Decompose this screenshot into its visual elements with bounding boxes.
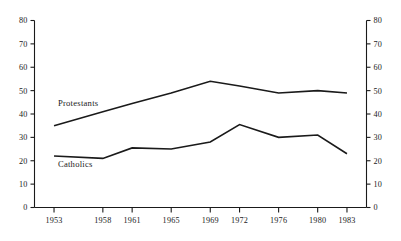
y-tick-label-left: 20 <box>19 157 28 166</box>
series-label-protestants: Protestants <box>58 98 99 108</box>
x-tick-label: 1961 <box>124 216 141 225</box>
y-tick-label-left: 50 <box>19 87 28 96</box>
y-tick-label-right: 20 <box>374 157 383 166</box>
x-tick-label: 1983 <box>338 216 355 225</box>
y-tick-label-right: 70 <box>374 40 383 49</box>
y-tick-label-left: 70 <box>19 40 28 49</box>
y-tick-label-left: 60 <box>19 63 28 72</box>
y-tick-label-right: 40 <box>374 110 383 119</box>
y-tick-label-right: 50 <box>374 87 383 96</box>
series-line-catholics <box>54 125 347 159</box>
series-label-catholics: Catholics <box>58 159 93 169</box>
y-tick-label-left: 0 <box>23 203 27 212</box>
y-tick-label-right: 60 <box>374 63 383 72</box>
y-tick-label-left: 80 <box>19 16 28 25</box>
line-chart-plot: 01020304050607080 01020304050607080 1953… <box>0 0 401 241</box>
x-tick-label: 1980 <box>309 216 326 225</box>
series-lines <box>54 81 347 158</box>
y-tick-label-right: 0 <box>374 203 378 212</box>
x-tick-label: 1972 <box>231 216 248 225</box>
x-tick-label: 1953 <box>45 216 62 225</box>
x-tick-label: 1976 <box>270 216 287 225</box>
x-tick-label: 1958 <box>94 216 111 225</box>
x-axis: 195319581961196519691972197619801983 <box>35 208 367 225</box>
y-tick-label-left: 30 <box>19 133 28 142</box>
y-tick-label-right: 80 <box>374 16 383 25</box>
right-y-axis: 01020304050607080 <box>367 16 383 212</box>
y-tick-label-left: 10 <box>19 180 28 189</box>
x-tick-label: 1969 <box>202 216 219 225</box>
chart-container: 01020304050607080 01020304050607080 1953… <box>0 0 401 241</box>
y-tick-label-right: 30 <box>374 133 383 142</box>
y-tick-label-left: 40 <box>19 110 28 119</box>
left-y-axis: 01020304050607080 <box>19 16 35 212</box>
x-tick-label: 1965 <box>163 216 180 225</box>
y-tick-label-right: 10 <box>374 180 383 189</box>
